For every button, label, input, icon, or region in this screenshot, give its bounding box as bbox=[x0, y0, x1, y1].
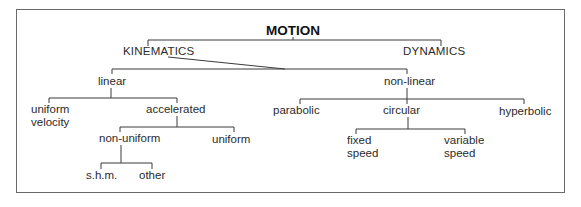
node-dynamics: DYNAMICS bbox=[403, 45, 465, 58]
node-variable-speed: variable speed bbox=[444, 134, 484, 160]
node-other: other bbox=[139, 169, 165, 182]
node-circular: circular bbox=[383, 104, 420, 117]
node-accelerated: accelerated bbox=[146, 103, 205, 116]
node-uniform: uniform bbox=[212, 133, 250, 146]
node-linear: linear bbox=[98, 75, 126, 88]
node-hyperbolic: hyperbolic bbox=[499, 105, 551, 118]
node-parabolic: parabolic bbox=[273, 104, 320, 117]
node-non-uniform: non-uniform bbox=[99, 132, 160, 145]
node-kinematics: KINEMATICS bbox=[123, 45, 194, 58]
node-motion: MOTION bbox=[266, 24, 320, 37]
node-uniform-velocity: uniform velocity bbox=[31, 103, 69, 129]
node-non-linear: non-linear bbox=[384, 75, 435, 88]
node-fixed-speed: fixed speed bbox=[347, 134, 378, 160]
node-shm: s.h.m. bbox=[86, 169, 117, 182]
